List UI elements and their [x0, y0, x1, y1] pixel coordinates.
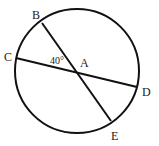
point-label-e: E [111, 129, 118, 143]
angle-label: 40° [50, 55, 64, 66]
point-label-b: B [32, 8, 40, 22]
point-label-d: D [142, 85, 151, 99]
point-label-c: C [4, 50, 12, 64]
chord-cd [16, 58, 137, 87]
point-label-a: A [80, 56, 89, 70]
circle-chords-diagram: B C A D E 40° [0, 0, 159, 146]
